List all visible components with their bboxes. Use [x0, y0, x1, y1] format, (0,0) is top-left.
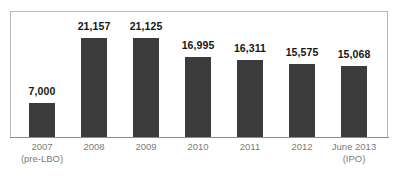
bar-group-june-2013: 15,068 — [328, 0, 380, 137]
bar-group-2008: 21,157 — [68, 0, 120, 137]
bar-value-label: 21,157 — [68, 20, 120, 32]
category-label-june-2013: June 2013 (IPO) — [324, 141, 384, 165]
bar-value-label: 21,125 — [120, 20, 172, 32]
category-label-2011: 2011 — [220, 141, 280, 153]
category-label-text: 2008 — [83, 141, 104, 152]
bar-rect[interactable] — [237, 60, 263, 137]
category-label-2012: 2012 — [272, 141, 332, 153]
category-label-2009: 2009 — [116, 141, 176, 153]
category-label-text: 2007 — [31, 141, 52, 152]
category-sublabel-text: (IPO) — [324, 153, 384, 165]
bar-value-label: 15,068 — [328, 48, 380, 60]
bar-group-2007: 7,000 — [16, 0, 68, 137]
bar-rect[interactable] — [289, 64, 315, 137]
bar-rect[interactable] — [29, 103, 55, 137]
category-label-text: 2011 — [240, 141, 260, 152]
bar-rect[interactable] — [133, 38, 159, 137]
bar-rect[interactable] — [81, 38, 107, 137]
bar-chart: 7,000 21,157 21,125 16,995 16,311 15,575… — [0, 0, 403, 179]
bar-rect[interactable] — [341, 66, 367, 137]
bar-group-2010: 16,995 — [172, 0, 224, 137]
bar-rect[interactable] — [185, 57, 211, 137]
bar-value-label: 15,575 — [276, 46, 328, 58]
category-axis-labels: 2007 (pre-LBO) 2008 2009 2010 2011 2012 … — [0, 141, 403, 179]
bar-group-2012: 15,575 — [276, 0, 328, 137]
bar-value-label: 16,311 — [224, 42, 276, 54]
bar-value-label: 16,995 — [172, 39, 224, 51]
category-label-2008: 2008 — [64, 141, 124, 153]
category-label-text: June 2013 — [332, 141, 376, 152]
bar-value-label: 7,000 — [16, 85, 68, 97]
category-label-text: 2010 — [187, 141, 208, 152]
category-sublabel-text: (pre-LBO) — [12, 153, 72, 165]
category-label-2007: 2007 (pre-LBO) — [12, 141, 72, 165]
category-label-2010: 2010 — [168, 141, 228, 153]
category-label-text: 2009 — [135, 141, 156, 152]
bar-group-2009: 21,125 — [120, 0, 172, 137]
bar-group-2011: 16,311 — [224, 0, 276, 137]
category-label-text: 2012 — [291, 141, 312, 152]
